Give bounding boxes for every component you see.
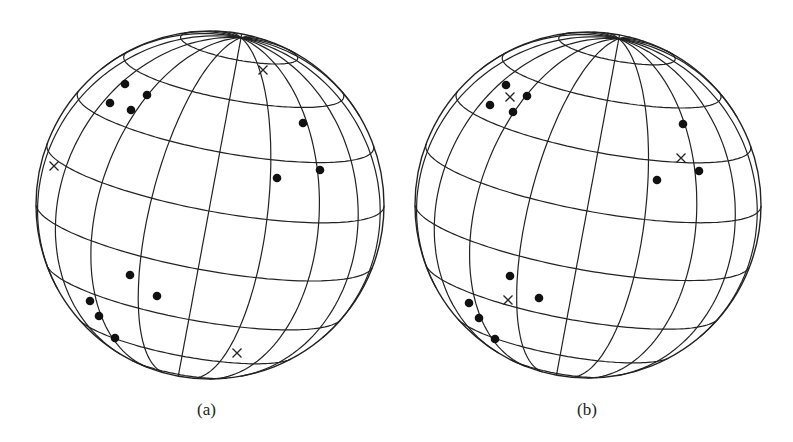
point-dot bbox=[106, 99, 115, 108]
caption-a: (a) bbox=[197, 400, 216, 420]
meridian-line bbox=[102, 34, 241, 69]
point-dot bbox=[121, 80, 130, 89]
meridian-line bbox=[241, 38, 359, 377]
point-dot bbox=[143, 91, 152, 100]
point-dot bbox=[679, 120, 688, 129]
parallel-line bbox=[77, 91, 374, 163]
globe-diagram-figure bbox=[0, 0, 793, 442]
graticule bbox=[415, 32, 761, 378]
caption-b: (b) bbox=[577, 400, 597, 420]
meridian-line bbox=[618, 39, 735, 376]
point-dot bbox=[316, 166, 325, 175]
point-dot bbox=[299, 119, 308, 128]
globe-panel-b bbox=[415, 32, 761, 378]
meridian-line bbox=[619, 39, 757, 337]
data-points bbox=[465, 81, 704, 344]
point-dot bbox=[111, 334, 120, 343]
meridian-line bbox=[91, 38, 241, 368]
point-dot bbox=[502, 81, 511, 90]
cross-marker-icon bbox=[677, 154, 686, 163]
point-dot bbox=[273, 174, 282, 183]
graticule bbox=[36, 31, 384, 379]
meridian-line bbox=[241, 38, 380, 338]
point-dot bbox=[486, 101, 495, 110]
point-dot bbox=[127, 106, 136, 115]
cross-marker-icon bbox=[506, 93, 515, 102]
parallel-line bbox=[47, 144, 384, 223]
point-dot bbox=[491, 335, 500, 344]
cross-marker-icon bbox=[504, 296, 513, 305]
cross-marker-icon bbox=[233, 349, 242, 358]
point-dot bbox=[535, 294, 544, 303]
point-dot bbox=[523, 92, 532, 101]
point-dot bbox=[126, 271, 135, 280]
parallel-line bbox=[36, 205, 372, 281]
point-dot bbox=[465, 299, 474, 308]
point-dot bbox=[86, 297, 95, 306]
parallel-line bbox=[426, 265, 718, 329]
point-dot bbox=[653, 176, 662, 185]
point-dot bbox=[506, 272, 515, 281]
meridian-line bbox=[480, 35, 618, 70]
point-dot bbox=[475, 314, 484, 323]
parallel-line bbox=[415, 205, 749, 280]
globe-panel-a bbox=[36, 31, 384, 379]
meridian-line bbox=[470, 39, 619, 367]
parallel-line bbox=[426, 144, 761, 223]
point-dot bbox=[509, 108, 518, 117]
point-dot bbox=[95, 312, 104, 321]
parallel-line bbox=[456, 92, 751, 163]
point-dot bbox=[153, 292, 162, 301]
cross-marker-icon bbox=[50, 162, 59, 171]
point-dot bbox=[695, 167, 704, 176]
